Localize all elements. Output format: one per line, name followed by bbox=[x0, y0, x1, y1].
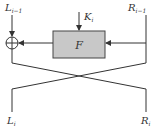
input-left-label: Li−1 bbox=[4, 2, 22, 14]
output-left-label: Li bbox=[6, 115, 16, 127]
function-label: F bbox=[74, 39, 83, 52]
feistel-diagram: Li−1 Ri−1 Ki F Li Ri bbox=[0, 0, 156, 131]
xor-icon bbox=[6, 37, 18, 49]
output-right-label: Ri bbox=[140, 115, 151, 127]
key-label: Ki bbox=[83, 11, 93, 23]
input-right-label: Ri−1 bbox=[127, 2, 146, 14]
